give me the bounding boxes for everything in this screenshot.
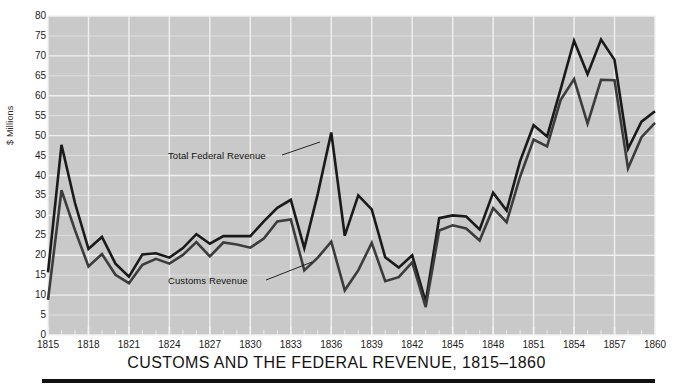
- y-tick-label: 10: [20, 290, 46, 300]
- x-axis-tick-labels: 1815181818211824182718301833183618391842…: [0, 337, 673, 353]
- y-tick-label: 70: [20, 51, 46, 61]
- x-tick-label: 1836: [320, 339, 342, 350]
- x-tick-label: 1845: [442, 339, 464, 350]
- y-tick-label: 15: [20, 270, 46, 280]
- annotation-total-federal-revenue: Total Federal Revenue: [168, 150, 266, 161]
- y-tick-label: 40: [20, 171, 46, 181]
- x-tick-label: 1842: [401, 339, 423, 350]
- y-tick-label: 30: [20, 210, 46, 220]
- x-tick-label: 1833: [280, 339, 302, 350]
- x-tick-label: 1848: [482, 339, 504, 350]
- chart-figure: $ Millions 05101520253035404550556065707…: [0, 0, 673, 392]
- x-tick-label: 1851: [522, 339, 544, 350]
- y-tick-label: 75: [20, 31, 46, 41]
- y-axis-tick-labels: 05101520253035404550556065707580: [14, 0, 46, 392]
- y-tick-label: 65: [20, 71, 46, 81]
- y-tick-label: 25: [20, 230, 46, 240]
- x-tick-label: 1857: [603, 339, 625, 350]
- x-tick-label: 1854: [563, 339, 585, 350]
- x-tick-label: 1815: [37, 339, 59, 350]
- y-tick-label: 5: [20, 310, 46, 320]
- x-tick-label: 1824: [158, 339, 180, 350]
- y-tick-label: 45: [20, 151, 46, 161]
- x-tick-label: 1839: [361, 339, 383, 350]
- x-tick-label: 1827: [199, 339, 221, 350]
- x-tick-label: 1821: [118, 339, 140, 350]
- revenue-line-chart: [0, 0, 673, 392]
- title-underline-rule: [42, 379, 655, 383]
- y-tick-label: 80: [20, 11, 46, 21]
- y-tick-label: 55: [20, 111, 46, 121]
- x-tick-label: 1818: [77, 339, 99, 350]
- y-tick-label: 20: [20, 250, 46, 260]
- x-tick-label: 1830: [239, 339, 261, 350]
- chart-title: CUSTOMS AND THE FEDERAL REVENUE, 1815–18…: [0, 354, 673, 372]
- y-tick-label: 35: [20, 190, 46, 200]
- annotation-customs-revenue: Customs Revenue: [168, 275, 248, 286]
- y-tick-label: 60: [20, 91, 46, 101]
- y-tick-label: 50: [20, 131, 46, 141]
- x-tick-label: 1860: [644, 339, 666, 350]
